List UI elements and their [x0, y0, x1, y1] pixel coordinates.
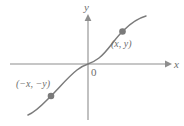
point-marker-positive — [119, 28, 126, 35]
odd-function-figure: y x 0 (x, y) (−x, −y) — [0, 0, 184, 126]
y-axis-label: y — [84, 2, 89, 13]
figure-canvas — [0, 0, 184, 126]
origin-label: 0 — [91, 67, 97, 78]
x-axis-label: x — [174, 59, 179, 70]
point-label-positive: (x, y) — [111, 39, 132, 49]
x-axis-arrowhead — [165, 61, 172, 68]
point-label-negative: (−x, −y) — [16, 79, 50, 89]
function-curve — [28, 16, 146, 115]
y-axis-arrowhead — [85, 14, 92, 21]
point-marker-negative — [48, 93, 55, 100]
